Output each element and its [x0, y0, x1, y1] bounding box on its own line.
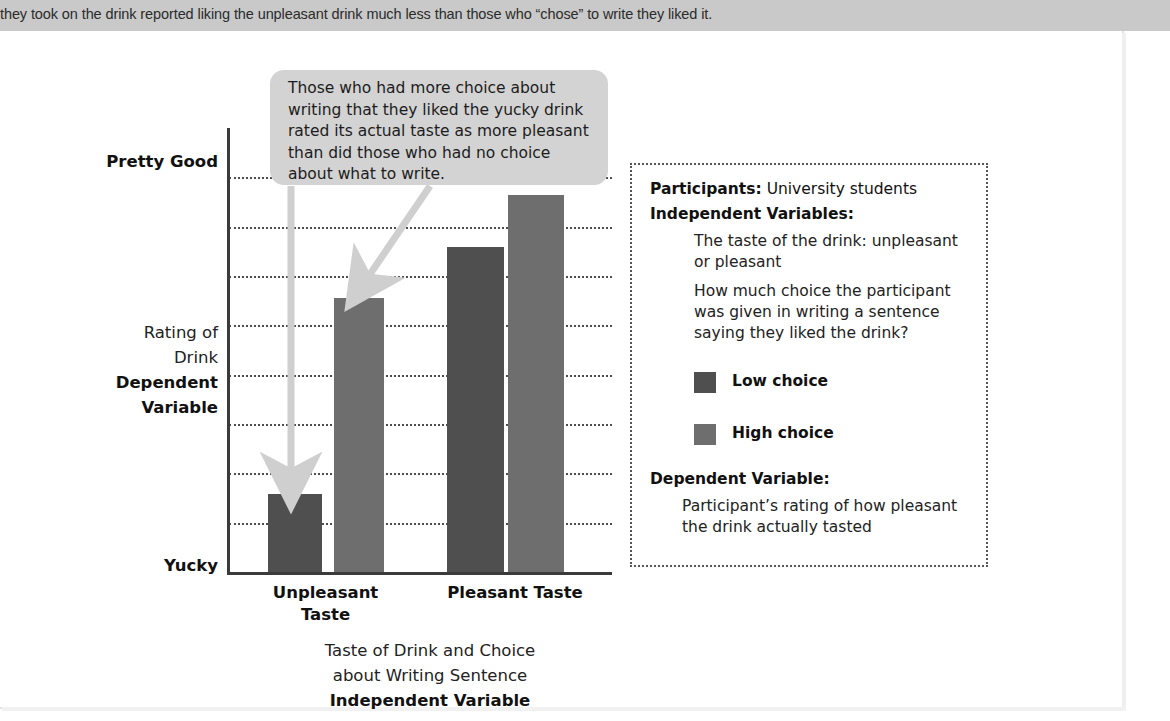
participants-value: University students	[762, 180, 917, 198]
participants-row: Participants: University students	[650, 180, 917, 198]
y-axis-title: Rating of Drink Dependent Variable	[70, 320, 218, 420]
bar-chart-figure: Those who had more choice about writing …	[0, 0, 1170, 721]
bar-2	[447, 247, 504, 572]
x-tick-label-pleasant-taste: Pleasant Taste	[425, 582, 605, 604]
x-axis-title: Taste of Drink and Choice about Writing …	[255, 638, 605, 713]
bar-0	[268, 494, 322, 572]
legend-swatch-high-choice-icon	[694, 424, 716, 445]
participants-label: Participants:	[650, 180, 762, 198]
independent-variable-1: The taste of the drink: unpleasant or pl…	[694, 231, 974, 273]
y-axis-title-line3: Dependent	[70, 370, 218, 395]
x-tick-label-unpleasant-taste: Unpleasant Taste	[253, 582, 398, 626]
y-axis-title-line2: Drink	[70, 345, 218, 370]
x-axis-title-line1: Taste of Drink and Choice	[255, 638, 605, 663]
x-axis-title-line2: about Writing Sentence	[255, 663, 605, 688]
y-axis-title-line4: Variable	[70, 395, 218, 420]
bar-1	[334, 298, 384, 572]
legend-swatch-low-choice-icon	[694, 372, 716, 393]
callout-text: Those who had more choice about writing …	[288, 78, 598, 186]
independent-variable-2: How much choice the participant was give…	[694, 281, 976, 344]
y-axis-top-label: Pretty Good	[100, 152, 218, 171]
y-axis-title-line1: Rating of	[70, 320, 218, 345]
arrow-to-high-choice-bar	[362, 186, 430, 286]
bar-3	[508, 195, 564, 572]
legend-label-high-choice: High choice	[732, 424, 834, 442]
callout-bubble: Those who had more choice about writing …	[270, 70, 608, 185]
y-axis-bottom-label: Yucky	[100, 556, 218, 575]
legend-label-low-choice: Low choice	[732, 372, 828, 390]
dependent-variable-body: Participant’s rating of how pleasant the…	[682, 496, 977, 538]
independent-variables-label: Independent Variables:	[650, 205, 854, 223]
dependent-variable-label: Dependent Variable:	[650, 470, 830, 488]
x-axis-title-line3: Independent Variable	[255, 688, 605, 713]
study-info-box: Participants: University students Indepe…	[630, 163, 988, 567]
x-axis-line	[227, 572, 612, 575]
y-axis-line	[227, 128, 230, 574]
